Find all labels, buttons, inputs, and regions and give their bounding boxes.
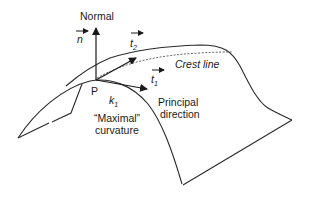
principal-label: Principal — [158, 96, 198, 108]
maximal-label: “Maximal” — [94, 112, 141, 124]
t1-label: t1 — [151, 73, 158, 87]
direction-label: direction — [160, 108, 200, 120]
normal-label: Normal — [80, 10, 114, 22]
point-p-label: P — [91, 85, 98, 97]
right-bottom-edge — [183, 120, 292, 185]
surface-outline — [18, 45, 292, 185]
t2-label: t2 — [130, 37, 137, 51]
n-label: n — [77, 33, 83, 45]
left-fold-edge — [52, 84, 82, 122]
t1-vector-arrow — [96, 80, 147, 89]
curvature-label: curvature — [95, 124, 139, 136]
crest-line-diagram: Normal n t2 t1 Crest line P k1 “Maximal”… — [0, 0, 316, 200]
crest-line-label: Crest line — [175, 58, 220, 70]
k1-label: k1 — [109, 94, 118, 108]
